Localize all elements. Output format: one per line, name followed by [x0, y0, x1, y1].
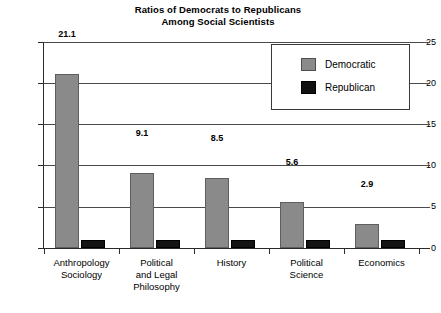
bar-democratic-history	[205, 178, 229, 248]
chart-title: Ratios of Democrats to Republicans Among…	[0, 4, 436, 28]
bar-republican-political-legal-philosophy	[156, 240, 180, 248]
chart-title-line-1: Ratios of Democrats to Republicans	[0, 4, 436, 16]
gridline-25	[44, 42, 430, 43]
bar-republican-economics	[381, 240, 405, 248]
gridline-10	[44, 165, 430, 166]
gridline-15	[44, 124, 430, 125]
category-line: Philosophy	[95, 281, 218, 293]
x-separator-0	[44, 248, 45, 254]
bar-democratic-anthropology-sociology	[55, 74, 79, 248]
category-line: and Legal	[95, 269, 218, 281]
bar-democratic-political-legal-philosophy	[130, 173, 154, 248]
x-separator-1	[119, 248, 120, 254]
x-separator-3	[269, 248, 270, 254]
bar-democratic-political-science	[280, 202, 304, 248]
bar-value-anthropology-sociology: 21.1	[49, 30, 85, 39]
gray-swatch-icon	[301, 58, 316, 71]
black-swatch-icon	[301, 81, 316, 94]
chart-title-line-2: Among Social Scientists	[0, 16, 436, 28]
legend-label-democratic: Democratic	[325, 59, 376, 71]
bar-republican-history	[231, 240, 255, 248]
x-separator-5	[419, 248, 420, 254]
category-label-economics: Economics	[320, 257, 441, 269]
bar-value-economics: 2.9	[349, 180, 385, 189]
bar-value-history: 8.5	[199, 134, 235, 143]
bar-value-political-science: 5.6	[274, 158, 310, 167]
bar-democratic-economics	[355, 224, 379, 248]
category-line: Economics	[320, 257, 441, 269]
bar-republican-political-science	[306, 240, 330, 248]
gridline-5	[44, 207, 430, 208]
bar-value-political-legal-philosophy: 9.1	[124, 129, 160, 138]
category-line: Science	[245, 269, 368, 281]
bar-republican-anthropology-sociology	[81, 240, 105, 248]
legend-label-republican: Republican	[325, 82, 375, 94]
x-axis-line	[44, 248, 430, 249]
x-separator-2	[194, 248, 195, 254]
x-separator-4	[344, 248, 345, 254]
chart-legend: Democratic Republican	[271, 44, 410, 110]
